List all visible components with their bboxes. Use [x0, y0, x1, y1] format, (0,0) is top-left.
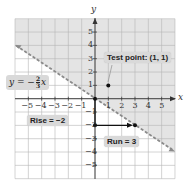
x-tick-label: 1 [106, 102, 111, 110]
run-label: Run = 3 [104, 136, 139, 147]
x-tick-label: 2 [119, 102, 124, 110]
x-tick-label: −2 [61, 102, 73, 110]
y-tick-label: −4 [85, 148, 97, 156]
rise-label: Rise = −2 [27, 115, 68, 126]
coordinate-plane [0, 0, 189, 184]
equation-fraction: 23 [36, 76, 40, 89]
y-tick-label: 3 [88, 55, 93, 63]
run-end-point [133, 123, 137, 127]
y-tick-label: 5 [88, 28, 93, 36]
y-tick-label: −2 [85, 121, 97, 129]
y-tick-label: 1 [88, 81, 93, 89]
y-tick-label: 4 [88, 41, 93, 49]
fraction-denominator: 3 [36, 83, 40, 89]
origin-point [93, 97, 97, 101]
x-tick-label: 5 [159, 102, 164, 110]
test-point-marker [106, 83, 110, 87]
run-arrow-icon [127, 123, 133, 128]
test-point-label: Test point: (1, 1) [104, 52, 171, 63]
y-axis-label: y [91, 4, 96, 14]
x-tick-label: 3 [132, 102, 137, 110]
equation-label: y = −23x [6, 75, 49, 90]
x-tick-label: −3 [48, 102, 60, 110]
y-tick-label: 2 [88, 68, 93, 76]
y-tick-label: −1 [85, 108, 97, 116]
x-tick-label: 4 [146, 102, 151, 110]
equation-variable: x [41, 77, 46, 87]
y-tick-label: −5 [85, 161, 97, 169]
x-axis-label: x [178, 92, 183, 102]
x-tick-label: −4 [35, 102, 47, 110]
y-tick-label: −3 [85, 135, 97, 143]
equation-prefix: y = − [9, 77, 35, 87]
x-tick-label: −5 [21, 102, 33, 110]
